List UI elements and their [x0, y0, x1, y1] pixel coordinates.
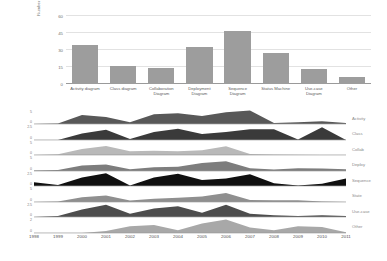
sparkline-plot: [34, 203, 346, 219]
sparkline-series-label: Activity: [352, 115, 365, 120]
sparkline-area-svg: [34, 203, 346, 219]
sparkline-area: [34, 146, 346, 155]
bar-chart-y-tick-label: 60: [58, 14, 63, 19]
bar-column[interactable]: [110, 16, 136, 84]
sparkline-year-label: 2006: [221, 234, 231, 239]
sparkline-row: 20Other: [0, 219, 387, 235]
sparkline-y-tick-label: 0: [30, 198, 32, 202]
sparkline-y-tick-label: 2.5: [27, 203, 32, 207]
sparkline-y-axis: 2.50: [18, 203, 32, 219]
bar[interactable]: [110, 66, 136, 84]
sparkline-year-label: 2005: [197, 234, 207, 239]
sparkline-y-tick-label: 2.5: [27, 172, 32, 176]
sparkline-y-axis: 50: [18, 141, 32, 157]
bar[interactable]: [301, 69, 327, 84]
sparkline-y-tick-label: 5: [30, 141, 32, 145]
sparkline-row: 2.50Sequence: [0, 172, 387, 188]
sparkline-year-label: 2000: [77, 234, 87, 239]
sparkline-series-label: Other: [352, 224, 362, 229]
sparkline-year-label: 2002: [125, 234, 135, 239]
sparkline-area-svg: [34, 219, 346, 235]
bar[interactable]: [339, 77, 365, 84]
sparkline-y-tick-label: 2: [30, 218, 32, 222]
sparkline-area-svg: [34, 157, 346, 173]
bar[interactable]: [148, 68, 174, 84]
bar-chart-category-label: Other: [335, 86, 369, 110]
sparkline-y-tick-label: 2.5: [27, 125, 32, 129]
sparkline-y-axis: 20: [18, 219, 32, 235]
bar-chart-plot-area: 015304560: [66, 16, 371, 84]
sparkline-plot: [34, 188, 346, 204]
sparkline-y-axis: 2.50: [18, 172, 32, 188]
sparkline-plot: [34, 157, 346, 173]
sparkline-area-svg: [34, 188, 346, 204]
bar-chart-y-axis-title: Number of Studies: [36, 0, 48, 26]
sparkline-year-label: 1998: [29, 234, 39, 239]
bar[interactable]: [224, 31, 250, 84]
bar-chart-category-label: Collaboration Diagram: [144, 86, 178, 110]
sparkline-plot: [34, 110, 346, 126]
sparkline-y-axis: 2.50: [18, 126, 32, 142]
sparkline-series-label: Use-case: [352, 208, 370, 213]
sparkline-y-axis: 50: [18, 157, 32, 173]
sparkline-row: 2.50Use-case: [0, 203, 387, 219]
sparkline-year-label: 2011: [341, 234, 350, 239]
bar-column[interactable]: [72, 16, 98, 84]
bar-chart-category-label: Use-case Diagram: [297, 86, 331, 110]
bar-column[interactable]: [263, 16, 289, 84]
sparkline-area: [34, 111, 346, 124]
sparkline-year-label: 2010: [317, 234, 327, 239]
sparkline-y-axis: 50: [18, 188, 32, 204]
sparkline-y-tick-label: 0: [30, 151, 32, 155]
sparkline-plot: [34, 172, 346, 188]
sparkline-x-axis: 1998199920002001200220032004200520062007…: [34, 234, 346, 246]
sparkline-y-tick-label: 5: [30, 156, 32, 160]
sparkline-series-label: Class: [352, 131, 362, 136]
sparkline-series-label: State: [352, 193, 362, 198]
sparkline-row: 50Deploy: [0, 157, 387, 173]
bar-column[interactable]: [148, 16, 174, 84]
sparkline-area: [34, 219, 346, 232]
sparkline-area-svg: [34, 141, 346, 157]
bar-chart-category-label: Sequence Diagram: [220, 86, 254, 110]
bar-column[interactable]: [301, 16, 327, 84]
sparkline-area: [34, 173, 346, 186]
bar-column[interactable]: [186, 16, 212, 84]
sparkline-year-label: 2001: [101, 234, 111, 239]
sparkline-y-tick-label: 0: [30, 167, 32, 171]
bar-chart-y-tick-label: 30: [58, 48, 63, 53]
bar-column[interactable]: [224, 16, 250, 84]
bar[interactable]: [186, 47, 212, 84]
bar-chart-y-tick-label: 15: [58, 65, 63, 70]
bar[interactable]: [72, 45, 98, 84]
sparkline-series-label: Deploy: [352, 162, 365, 167]
sparkline-y-tick-label: 0: [30, 136, 32, 140]
bar-chart-y-tick-label: 0: [61, 82, 63, 87]
sparkline-y-tick-label: 0: [30, 120, 32, 124]
sparkline-y-axis: 50: [18, 110, 32, 126]
sparkline-year-label: 2009: [293, 234, 303, 239]
chart-figure: Number of Studies 015304560 Activity dia…: [0, 0, 387, 261]
sparkline-year-label: 2004: [173, 234, 183, 239]
sparkline-plot: [34, 219, 346, 235]
sparkline-area: [34, 205, 346, 217]
sparkline-y-tick-label: 0: [30, 229, 32, 233]
bar[interactable]: [263, 53, 289, 84]
bar-chart: Number of Studies 015304560 Activity dia…: [0, 4, 387, 108]
bar-chart-category-label: Deployment Diagram: [182, 86, 216, 110]
sparkline-y-tick-label: 5: [30, 187, 32, 191]
sparkline-area-svg: [34, 126, 346, 142]
bar-chart-bars: [66, 16, 371, 84]
sparkline-row: 50Collab: [0, 141, 387, 157]
sparkline-year-label: 2008: [269, 234, 279, 239]
sparkline-row: 50Activity: [0, 110, 387, 126]
bar-chart-y-tick-label: 45: [58, 31, 63, 36]
bar-chart-x-axis-labels: Activity diagramClass diagramCollaborati…: [66, 86, 371, 110]
sparkline-area: [34, 161, 346, 171]
sparkline-area-svg: [34, 172, 346, 188]
bar-column[interactable]: [339, 16, 365, 84]
sparkline-y-tick-label: 0: [30, 213, 32, 217]
sparkline-panel: 50Activity2.50Class50Collab50Deploy2.50S…: [0, 110, 387, 238]
sparkline-plot: [34, 141, 346, 157]
sparkline-series-label: Sequence: [352, 177, 371, 182]
